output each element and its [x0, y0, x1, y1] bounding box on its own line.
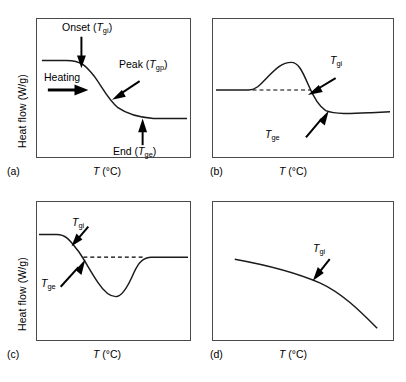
panel-c-letter: (c)	[7, 348, 19, 360]
panel-d-x-axis-label: T (°C)	[279, 348, 307, 360]
panel-a-heating-arrow	[37, 19, 190, 157]
panel-c-y-axis-label: Heat flow (W/g)	[16, 257, 28, 331]
panel-c-tgi-label: Tgi	[72, 217, 84, 229]
panel-c-x-axis-label: T (°C)	[93, 348, 121, 360]
panel-b-tge-label: Tge	[265, 129, 280, 141]
panel-c-plot-frame	[36, 201, 191, 341]
panel-d-letter: (d)	[210, 348, 223, 360]
panel-d-tgi-label: Tgi	[313, 243, 325, 255]
panel-b-letter: (b)	[210, 165, 223, 177]
panel-a-heating-label: Heating	[44, 72, 80, 84]
panel-a-onset-label: Onset (Tgi)	[62, 22, 112, 34]
panel-a: Heat flow (W/g)	[0, 0, 203, 191]
panel-a-plot-frame	[36, 18, 191, 158]
panel-c-tge-arrow	[37, 202, 190, 340]
panel-a-end-label: End (Tge)	[113, 146, 156, 158]
dsc-figure: Heat flow (W/g)	[0, 0, 406, 382]
panel-a-x-axis-label: T (°C)	[93, 165, 121, 177]
panel-d: Tgi (d) T (°C)	[203, 191, 406, 382]
panel-d-tgi-arrow	[213, 202, 393, 340]
panel-b: Tgi Tge (b) T (°C)	[203, 0, 406, 191]
panel-a-letter: (a)	[7, 165, 20, 177]
panel-c: Heat flow (W/g) Tgi Tge (c) T (°C)	[0, 191, 203, 382]
panel-a-y-axis-label: Heat flow (W/g)	[16, 74, 28, 148]
panel-b-plot-frame	[212, 18, 394, 158]
panel-b-x-axis-label: T (°C)	[279, 165, 307, 177]
panel-a-peak-label: Peak (Tgp)	[119, 59, 168, 71]
panel-c-tge-label: Tge	[41, 278, 56, 290]
panel-b-tgi-label: Tgi	[330, 55, 342, 67]
panel-b-tge-arrow	[213, 19, 393, 157]
panel-d-plot-frame	[212, 201, 394, 341]
